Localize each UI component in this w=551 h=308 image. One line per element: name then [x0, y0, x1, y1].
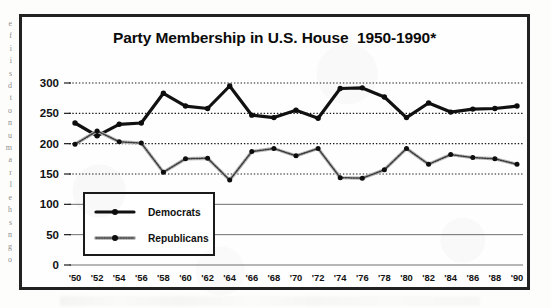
x-axis-tick-label: '70 — [290, 272, 303, 283]
data-point-democrats-76 — [360, 85, 365, 90]
x-axis-tick-label: '60 — [179, 272, 192, 283]
x-axis-tick-label: '90 — [511, 272, 524, 283]
x-axis-tick-label: '84 — [444, 272, 457, 283]
data-point-republicans-52 — [95, 128, 100, 133]
data-point-democrats-90 — [514, 103, 519, 108]
x-axis-tick-label: '62 — [201, 272, 214, 283]
x-axis-tick-label: '72 — [312, 272, 325, 283]
y-axis-tick-label: 250 — [40, 107, 59, 119]
legend-label-democrats: Democrats — [148, 207, 201, 218]
margin-text-fragment: e — [0, 18, 12, 30]
x-axis-tick-label: '58 — [157, 272, 170, 283]
data-point-republicans-84 — [448, 152, 453, 157]
x-axis-tick-label: '88 — [489, 272, 502, 283]
data-point-republicans-66 — [249, 149, 254, 154]
x-axis-tick-label: '56 — [135, 272, 148, 283]
data-point-democrats-78 — [382, 94, 387, 99]
margin-text-fragment: u — [0, 130, 12, 142]
margin-text-fragment: m — [0, 142, 12, 154]
data-point-republicans-70 — [294, 153, 299, 158]
y-axis-tick-label: 50 — [46, 229, 59, 241]
x-axis-tick-label: '80 — [400, 272, 413, 283]
data-point-republicans-90 — [515, 162, 520, 167]
x-axis-tick-label: '86 — [466, 272, 479, 283]
data-point-democrats-64 — [227, 83, 232, 88]
x-axis-tick-label: '78 — [378, 272, 391, 283]
y-axis-tick-label: 100 — [40, 198, 59, 210]
x-axis-tick-label: '82 — [422, 272, 435, 283]
data-point-democrats-54 — [117, 122, 122, 127]
data-point-republicans-54 — [117, 139, 122, 144]
data-point-democrats-58 — [161, 91, 166, 96]
data-point-republicans-88 — [492, 156, 497, 161]
chart-legend: DemocratsRepublicans — [84, 193, 214, 255]
chart-plot-area: 050100150200250300 '50'52'54'56'58'60'62… — [22, 17, 527, 287]
margin-text-fragment: g — [0, 241, 12, 253]
data-point-democrats-84 — [448, 109, 453, 114]
data-point-republicans-86 — [470, 155, 475, 160]
margin-text-fragment: r — [0, 167, 12, 179]
data-point-republicans-62 — [205, 156, 210, 161]
data-point-democrats-74 — [338, 86, 343, 91]
x-axis-tick-label: '52 — [91, 272, 104, 283]
margin-text-fragment: a — [0, 154, 12, 166]
data-point-republicans-58 — [161, 170, 166, 175]
legend-marker-republicans — [112, 235, 118, 241]
data-point-democrats-80 — [404, 115, 409, 120]
x-axis-tick-label: '64 — [223, 272, 236, 283]
data-point-democrats-68 — [271, 115, 276, 120]
data-point-democrats-72 — [315, 115, 320, 120]
x-axis-tick-label: '74 — [334, 272, 347, 283]
margin-text-fragment: f — [0, 30, 12, 42]
data-point-democrats-62 — [205, 106, 210, 111]
data-point-democrats-70 — [293, 108, 298, 113]
margin-text-fragment: t — [0, 92, 12, 104]
y-axis-tick-label: 200 — [40, 138, 59, 150]
margin-text-fragment: i — [0, 55, 12, 67]
x-axis-tick-label: '76 — [356, 272, 369, 283]
margin-text-fragment: l — [0, 179, 12, 191]
data-point-democrats-88 — [492, 106, 497, 111]
data-point-democrats-56 — [139, 120, 144, 125]
legend-marker-democrats — [112, 209, 118, 215]
data-point-republicans-68 — [271, 146, 276, 151]
margin-text-fragment: n — [0, 117, 12, 129]
data-point-republicans-60 — [183, 156, 188, 161]
x-axis-tick-label: '68 — [268, 272, 281, 283]
data-point-republicans-78 — [382, 167, 387, 172]
margin-text-fragment: o — [0, 254, 12, 266]
x-axis-tick-label: '66 — [245, 272, 258, 283]
data-point-republicans-82 — [426, 162, 431, 167]
y-axis-tick-label: 300 — [40, 77, 59, 89]
data-series — [72, 83, 519, 182]
data-point-democrats-86 — [470, 106, 475, 111]
data-point-democrats-60 — [183, 103, 188, 108]
data-point-democrats-50 — [72, 120, 77, 125]
y-axis-tick-label: 0 — [53, 259, 59, 271]
margin-text-fragment: i — [0, 43, 12, 55]
x-axis-tick-label: '54 — [113, 272, 126, 283]
data-point-democrats-82 — [426, 100, 431, 105]
y-axis-tick-label: 150 — [40, 168, 59, 180]
data-point-republicans-50 — [73, 142, 78, 147]
data-point-republicans-76 — [360, 176, 365, 181]
legend-label-republicans: Republicans — [148, 233, 209, 244]
scan-margin-artifacts: efiisdtonumarlehsngo — [0, 18, 12, 288]
margin-text-fragment: d — [0, 80, 12, 92]
legend-box — [84, 193, 214, 255]
x-axis: '50'52'54'56'58'60'62'64'66'68'70'72'74'… — [69, 272, 524, 283]
data-point-democrats-66 — [249, 112, 254, 117]
margin-text-fragment: o — [0, 105, 12, 117]
y-axis: 050100150200250300 — [40, 77, 71, 271]
page-smudge-artifact — [60, 296, 480, 306]
data-point-republicans-80 — [404, 146, 409, 151]
data-point-republicans-56 — [139, 141, 144, 146]
margin-text-fragment: s — [0, 217, 12, 229]
data-point-republicans-64 — [227, 178, 232, 183]
chart-figure: Party Membership in U.S. House 1950-1990… — [19, 14, 530, 290]
data-point-republicans-74 — [338, 175, 343, 180]
margin-text-fragment: h — [0, 204, 12, 216]
x-axis-tick-label: '50 — [69, 272, 82, 283]
data-point-republicans-72 — [316, 146, 321, 151]
margin-text-fragment: e — [0, 192, 12, 204]
